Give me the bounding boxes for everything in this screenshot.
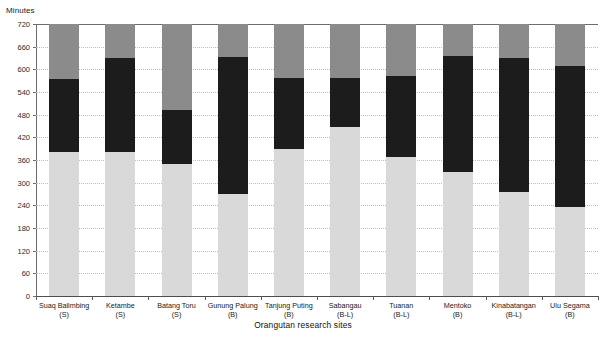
y-axis-tick-label: 660	[8, 43, 30, 52]
bar-segment-middle[interactable]	[555, 66, 585, 207]
bar-segment-middle[interactable]	[105, 58, 135, 152]
bar-segment-middle[interactable]	[49, 79, 79, 152]
bar-segment-middle[interactable]	[218, 57, 248, 194]
x-axis-tick-mark	[36, 296, 37, 300]
bar-segment-top[interactable]	[105, 24, 135, 58]
bar-segment-top[interactable]	[274, 24, 304, 78]
bar-segment-top[interactable]	[386, 24, 416, 76]
bar-segment-top[interactable]	[218, 24, 248, 57]
y-axis-tick-label: 540	[8, 88, 30, 97]
y-axis-tick-label: 720	[8, 20, 30, 29]
y-axis-tick-mark	[33, 160, 36, 161]
category-name: Tanjung Puting	[265, 301, 313, 310]
bar-stack[interactable]	[162, 24, 192, 296]
bar-stack[interactable]	[555, 24, 585, 296]
bar-segment-middle[interactable]	[386, 76, 416, 157]
y-axis-tick-label: 60	[8, 269, 30, 278]
y-axis-tick-mark	[33, 251, 36, 252]
category-name: Batang Toru	[157, 301, 196, 310]
y-axis-tick-mark	[33, 273, 36, 274]
y-axis-tick-label: 180	[8, 224, 30, 233]
plot-area	[36, 24, 598, 296]
bar-segment-bottom[interactable]	[386, 157, 416, 296]
category-name: Ulu Segama	[550, 301, 590, 310]
y-axis-tick-mark	[33, 205, 36, 206]
bar-segment-top[interactable]	[162, 24, 192, 110]
x-axis-tick-mark	[486, 296, 487, 300]
y-axis-tick-label: 0	[8, 292, 30, 301]
bar-stack[interactable]	[105, 24, 135, 296]
y-axis-tick-label: 360	[8, 156, 30, 165]
y-axis-title: Minutes	[6, 6, 35, 15]
bar-segment-bottom[interactable]	[49, 152, 79, 296]
x-axis-category-label: Ulu Segama(B)	[532, 301, 606, 320]
bar-segment-bottom[interactable]	[555, 207, 585, 296]
bar-segment-top[interactable]	[49, 24, 79, 79]
category-name: Tuanan	[389, 301, 413, 310]
x-axis-tick-mark	[317, 296, 318, 300]
bar-segment-bottom[interactable]	[274, 149, 304, 296]
category-name: Mentoko	[444, 301, 472, 310]
bar-stack[interactable]	[274, 24, 304, 296]
y-axis-tick-label: 480	[8, 111, 30, 120]
bar-stack[interactable]	[386, 24, 416, 296]
x-axis-tick-mark	[92, 296, 93, 300]
y-axis-tick-mark	[33, 137, 36, 138]
bar-segment-top[interactable]	[330, 24, 360, 78]
y-axis-tick-mark	[33, 92, 36, 93]
x-axis-tick-mark	[148, 296, 149, 300]
bar-stack[interactable]	[499, 24, 529, 296]
category-code: (B)	[532, 310, 606, 319]
bar-segment-bottom[interactable]	[330, 127, 360, 296]
bar-stack[interactable]	[330, 24, 360, 296]
bar-segment-bottom[interactable]	[162, 164, 192, 296]
category-name: Sabangau	[329, 301, 362, 310]
category-name: Ketambe	[106, 301, 135, 310]
bar-stack[interactable]	[49, 24, 79, 296]
y-axis-tick-label: 420	[8, 133, 30, 142]
y-axis-tick-mark	[33, 69, 36, 70]
bar-segment-bottom[interactable]	[443, 172, 473, 296]
bar-segment-middle[interactable]	[330, 78, 360, 127]
stacked-bar-chart: Minutes 06012018024030036042048054060066…	[0, 0, 606, 338]
bar-segment-top[interactable]	[443, 24, 473, 56]
y-axis-tick-label: 300	[8, 179, 30, 188]
x-axis-tick-mark	[205, 296, 206, 300]
x-axis-title: Orangutan research sites	[0, 320, 606, 330]
bar-segment-bottom[interactable]	[105, 152, 135, 296]
y-axis-tick-mark	[33, 115, 36, 116]
y-axis-tick-mark	[33, 47, 36, 48]
bar-stack[interactable]	[443, 24, 473, 296]
x-axis-tick-mark	[429, 296, 430, 300]
x-axis-tick-mark	[261, 296, 262, 300]
y-axis-tick-mark	[33, 183, 36, 184]
x-axis-tick-mark	[598, 296, 599, 300]
y-axis-tick-label: 600	[8, 65, 30, 74]
bar-stack[interactable]	[218, 24, 248, 296]
bar-segment-middle[interactable]	[274, 78, 304, 149]
y-axis-tick-mark	[33, 24, 36, 25]
bar-segment-bottom[interactable]	[499, 192, 529, 296]
bar-segment-top[interactable]	[555, 24, 585, 66]
bar-segment-bottom[interactable]	[218, 194, 248, 296]
bar-segment-middle[interactable]	[443, 56, 473, 172]
bar-segment-middle[interactable]	[162, 110, 192, 164]
x-axis-tick-mark	[373, 296, 374, 300]
bar-segment-middle[interactable]	[499, 58, 529, 192]
x-axis-tick-mark	[542, 296, 543, 300]
y-axis-tick-label: 120	[8, 247, 30, 256]
y-axis-tick-label: 240	[8, 201, 30, 210]
bar-segment-top[interactable]	[499, 24, 529, 58]
category-name: Kinabatangan	[492, 301, 536, 310]
y-axis-tick-mark	[33, 228, 36, 229]
